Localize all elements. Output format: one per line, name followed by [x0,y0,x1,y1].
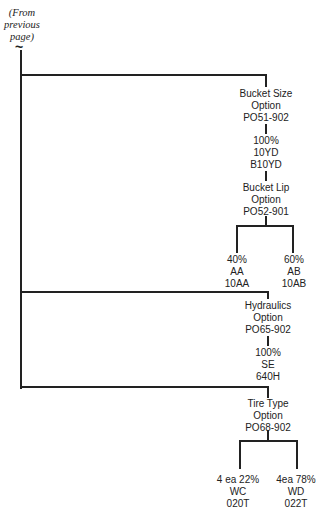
node-bucket-lip: Bucket Lip Option PO52-901 [243,182,290,218]
choice-code: SE [255,359,281,371]
choice-bucket-lip-aa: 40% AA 10AA [225,254,249,290]
choice-tire-type-wd: 4ea 78% WD 022T [276,474,315,510]
fork-left-bucket-lip [236,225,238,253]
trunk-line [20,50,22,389]
note-line-1: (From [0,7,44,19]
branch-line-bucket-size [20,74,267,76]
choice-percent: 100% [250,135,282,147]
node-type: Option [245,410,291,422]
branch-line-hydraulics [20,291,269,293]
choice-code: WD [276,486,315,498]
fork-bar-tire-type [239,440,298,442]
choice-code: 10YD [250,147,282,159]
choice-bucket-size: 100% 10YD B10YD [250,135,282,171]
node-hydraulics: Hydraulics Option PO65-902 [245,300,292,336]
node-title: Bucket Size [240,88,293,100]
node-type: Option [243,194,290,206]
choice-code: WC [217,486,259,498]
node-type: Option [245,312,292,324]
node-title: Bucket Lip [243,182,290,194]
choice-part: B10YD [250,159,282,171]
note-line-2: previous [0,19,44,31]
choice-percent: 100% [255,347,281,359]
choice-hydraulics: 100% SE 640H [255,347,281,383]
node-title: Hydraulics [245,300,292,312]
node-code: PO65-902 [245,324,292,336]
choice-percent: 40% [225,254,249,266]
fork-left-tire-type [239,440,241,469]
connector-hydraulics [267,336,269,346]
choice-part: 10AB [282,278,306,290]
node-title: Tire Type [245,398,291,410]
node-bucket-size: Bucket Size Option PO51-902 [240,88,293,124]
fork-right-bucket-lip [292,225,294,253]
choice-part: 020T [217,498,259,510]
choice-part: 10AA [225,278,249,290]
connector-bucket-size [265,124,267,134]
drop-line-bucket-size [265,74,267,87]
branch-line-tire-type [20,386,269,388]
node-type: Option [240,100,293,112]
choice-percent: 4ea 78% [276,474,315,486]
node-tire-type: Tire Type Option PO68-902 [245,398,291,434]
choice-part: 022T [276,498,315,510]
choice-percent: 4 ea 22% [217,474,259,486]
node-code: PO51-902 [240,112,293,124]
drop-line-tire-type [267,386,269,398]
choice-bucket-lip-ab: 60% AB 10AB [282,254,306,290]
continuation-note: (From previous page) [0,7,44,43]
choice-code: AA [225,266,249,278]
choice-percent: 60% [282,254,306,266]
drop-line-hydraulics [267,291,269,299]
fork-right-tire-type [296,440,298,469]
choice-code: AB [282,266,306,278]
fork-bar-bucket-lip [236,225,294,227]
choice-tire-type-wc: 4 ea 22% WC 020T [217,474,259,510]
connector-bucket-lip [265,171,267,181]
choice-part: 640H [255,371,281,383]
